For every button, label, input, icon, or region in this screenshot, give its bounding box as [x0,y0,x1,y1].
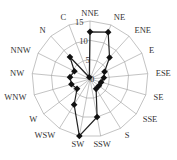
radial-tick-labels: 051015 [75,17,94,84]
direction-label-nne: NNE [81,8,98,18]
direction-label-sw: SW [71,139,84,149]
direction-label-ssw: SSW [93,139,110,149]
direction-label-nw: NW [10,68,24,78]
direction-label-ese: ESE [156,68,171,78]
direction-label-nnw: NNW [11,45,31,55]
radial-tick-label: 15 [75,17,84,27]
direction-label-ene: ENE [134,25,151,35]
direction-label-e: E [149,45,154,55]
data-point-ne [105,29,112,36]
data-point-wsw [71,101,78,108]
direction-label-s: S [125,130,130,140]
wind-rose-chart: 051015 NNENEENEEESESESSESSSWSWWSWWWNWNWN… [0,0,177,160]
direction-label-se: SE [153,92,163,102]
direction-label-wnw: WNW [4,92,26,102]
direction-label-sse: SSE [143,114,158,124]
radar-plot: 051015 NNENEENEEESESESSESSSWSWWSWWWNWNWN… [0,0,177,160]
direction-label-c: C [60,12,66,22]
data-point-nne [87,29,94,36]
radial-tick-label: 10 [79,36,88,46]
direction-label-ne: NE [114,12,125,22]
direction-label-n: N [39,25,45,35]
direction-label-wsw: WSW [34,130,55,140]
direction-label-w: W [29,114,37,124]
